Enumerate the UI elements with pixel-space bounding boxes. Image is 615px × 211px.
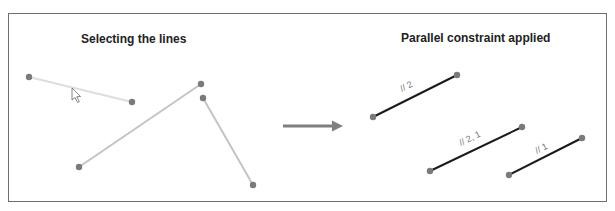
- selected-line-1[interactable]: [79, 84, 201, 167]
- endpoint[interactable]: [579, 135, 585, 141]
- endpoint[interactable]: [26, 74, 32, 80]
- endpoint[interactable]: [506, 172, 512, 178]
- endpoint[interactable]: [198, 81, 204, 87]
- left-panel: [26, 74, 256, 188]
- endpoint[interactable]: [200, 95, 206, 101]
- endpoint[interactable]: [519, 124, 525, 130]
- endpoint[interactable]: [370, 114, 376, 120]
- right-panel: // 2 // 2, 1 // 1: [370, 72, 585, 178]
- parallel-constraint-label[interactable]: // 2, 1: [457, 129, 482, 148]
- endpoint[interactable]: [427, 168, 433, 174]
- constrained-line-a[interactable]: [373, 75, 457, 117]
- endpoint[interactable]: [76, 164, 82, 170]
- right-arrow-icon: [283, 121, 343, 132]
- parallel-constraint-label[interactable]: // 2: [398, 79, 414, 94]
- endpoint[interactable]: [454, 72, 460, 78]
- hovered-line[interactable]: [29, 77, 132, 102]
- endpoint[interactable]: [129, 99, 135, 105]
- parallel-constraint-label[interactable]: // 1: [533, 141, 549, 156]
- diagram-canvas: // 2 // 2, 1 // 1: [0, 0, 615, 211]
- endpoint[interactable]: [250, 182, 256, 188]
- selected-line-2[interactable]: [203, 98, 253, 185]
